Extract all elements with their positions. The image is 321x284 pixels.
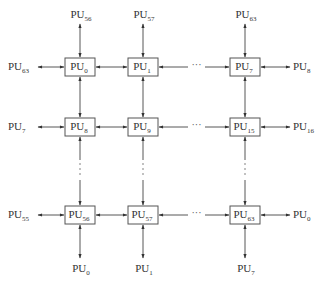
pu-node-15: PU15 [230,118,260,136]
right-label-pu-16: PU16 [293,120,315,135]
vertical-ellipsis-dot [79,168,80,169]
pu-node-8: PU8 [65,118,95,136]
right-label-pu-0: PU0 [293,208,311,223]
top-label-pu-63: PU63 [235,8,257,23]
horizontal-ellipsis-1: ··· [192,119,202,130]
pu-node-56: PU56 [65,206,95,224]
top-label-pu-56: PU56 [70,8,92,23]
vertical-ellipsis-dot [142,173,143,174]
vertical-ellipsis-dot [79,163,80,164]
bottom-label-pu-1: PU1 [135,262,153,277]
vertical-ellipsis-dot [244,163,245,164]
bottom-label-pu-7: PU7 [237,262,255,277]
pu-nodes: PU0PU1PU7PU8PU9PU15PU56PU57PU63 [65,58,260,224]
top-label-pu-57: PU57 [133,8,155,23]
pu-mesh-diagram: ········· PU0PU1PU7PU8PU9PU15PU56PU57PU6… [0,0,321,284]
pu-node-57: PU57 [128,206,158,224]
horizontal-ellipsis-2: ··· [192,207,202,218]
bottom-label-pu-0: PU0 [72,262,90,277]
pu-node-7: PU7 [230,58,260,76]
pu-node-0: PU0 [65,58,95,76]
vertical-ellipsis-dot [79,173,80,174]
left-label-pu-63: PU63 [8,60,30,75]
vertical-ellipsis-dot [142,163,143,164]
external-labels: PU56PU57PU63PU0PU1PU7PU63PU7PU55PU8PU16P… [8,8,315,277]
pu-node-1: PU1 [128,58,158,76]
right-label-pu-8: PU8 [293,60,311,75]
vertical-ellipsis-dot [244,173,245,174]
left-label-pu-55: PU55 [8,208,30,223]
vertical-ellipsis-dot [244,168,245,169]
horizontal-ellipsis-0: ··· [192,59,202,70]
left-label-pu-7: PU7 [8,120,26,135]
pu-node-63: PU63 [230,206,260,224]
pu-node-9: PU9 [128,118,158,136]
vertical-ellipsis-dot [142,168,143,169]
